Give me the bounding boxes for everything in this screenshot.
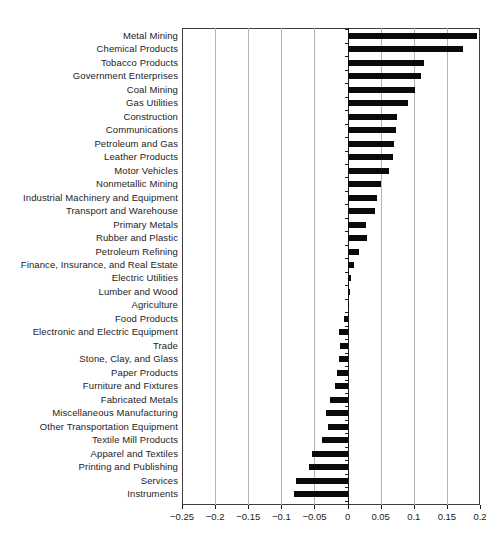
bar	[348, 275, 351, 281]
category-axis-tick	[345, 326, 348, 327]
category-axis-tick	[345, 56, 348, 57]
category-label: Coal Mining	[127, 85, 178, 95]
bar	[348, 249, 359, 255]
category-axis-tick	[345, 420, 348, 421]
gridline	[314, 28, 315, 505]
gridline	[281, 28, 282, 505]
category-label: Furniture and Fixtures	[83, 381, 178, 391]
category-label: Rubber and Plastic	[96, 233, 178, 243]
x-tick-label: −0.1	[272, 511, 291, 522]
category-axis-tick	[345, 272, 348, 273]
category-label: Construction	[123, 112, 178, 122]
x-tick-label: 0.2	[473, 511, 486, 522]
category-label: Trade	[153, 341, 178, 351]
category-label: Agriculture	[131, 300, 178, 310]
bar-chart-figure: −0.25−0.2−0.15−0.1−0.0500.050.10.150.2Me…	[0, 0, 503, 534]
bar	[339, 329, 348, 335]
category-label: Services	[141, 476, 178, 486]
bar	[348, 33, 477, 39]
category-axis-tick	[345, 501, 348, 502]
category-axis-tick	[345, 231, 348, 232]
category-label: Textile Mill Products	[92, 435, 178, 445]
bar	[348, 141, 394, 147]
bar	[337, 370, 348, 376]
bar	[328, 424, 348, 430]
bar	[312, 451, 348, 457]
bar	[348, 127, 396, 133]
category-label: Miscellaneous Manufacturing	[52, 408, 178, 418]
gridline	[248, 28, 249, 505]
x-axis-tick	[215, 505, 216, 509]
x-tick-label: −0.25	[170, 511, 194, 522]
category-label: Petroleum Refining	[95, 247, 178, 257]
bar	[348, 235, 367, 241]
bar	[348, 100, 408, 106]
category-axis-tick	[345, 29, 348, 30]
category-axis-tick	[345, 164, 348, 165]
category-label: Other Transportation Equipment	[40, 422, 178, 432]
bar	[326, 410, 347, 416]
category-axis-tick	[345, 191, 348, 192]
bar	[330, 397, 347, 403]
category-axis-tick	[345, 299, 348, 300]
x-axis-tick	[447, 505, 448, 509]
category-label: Electronic and Electric Equipment	[33, 327, 178, 337]
gridline	[447, 28, 448, 505]
x-axis-tick	[248, 505, 249, 509]
x-tick-label: 0	[345, 511, 350, 522]
category-label: Apparel and Textiles	[91, 449, 178, 459]
bar	[348, 289, 350, 295]
x-tick-label: 0.05	[371, 511, 390, 522]
category-label: Fabricated Metals	[101, 395, 178, 405]
bar	[340, 343, 348, 349]
category-axis-tick	[345, 151, 348, 152]
x-tick-label: −0.2	[206, 511, 225, 522]
category-axis-tick	[345, 97, 348, 98]
category-axis-tick	[345, 312, 348, 313]
x-axis-tick	[414, 505, 415, 509]
category-label: Industrial Machinery and Equipment	[23, 193, 178, 203]
x-tick-label: −0.15	[236, 511, 260, 522]
category-label: Printing and Publishing	[79, 462, 178, 472]
bar	[348, 73, 422, 79]
category-axis-tick	[345, 218, 348, 219]
category-axis-tick	[345, 339, 348, 340]
bar	[348, 262, 355, 268]
category-label: Government Enterprises	[73, 71, 178, 81]
plot-frame-left	[182, 28, 183, 505]
x-axis-tick	[348, 505, 349, 509]
plot-frame-bottom	[182, 504, 480, 505]
category-axis-tick	[345, 137, 348, 138]
category-axis-tick	[345, 487, 348, 488]
category-label: Nonmetallic Mining	[96, 179, 178, 189]
bar	[348, 181, 381, 187]
category-axis-tick	[345, 258, 348, 259]
gridline	[414, 28, 415, 505]
category-axis-tick	[345, 43, 348, 44]
category-axis-tick	[345, 177, 348, 178]
x-tick-label: 0.1	[407, 511, 420, 522]
category-axis-tick	[345, 406, 348, 407]
bar	[322, 437, 348, 443]
gridline	[215, 28, 216, 505]
plot-area	[182, 28, 480, 505]
x-axis-tick	[381, 505, 382, 509]
category-axis-tick	[345, 433, 348, 434]
bar	[348, 208, 375, 214]
bar	[348, 222, 367, 228]
bar	[348, 114, 398, 120]
x-axis-tick	[480, 505, 481, 509]
category-label: Communications	[106, 125, 178, 135]
category-label: Food Products	[115, 314, 178, 324]
category-axis-tick	[345, 70, 348, 71]
bar	[344, 316, 347, 322]
plot-frame-right	[479, 28, 480, 505]
category-label: Instruments	[127, 489, 178, 499]
bar	[309, 464, 347, 470]
bar	[294, 491, 348, 497]
category-axis-tick	[345, 366, 348, 367]
category-label: Stone, Clay, and Glass	[79, 354, 178, 364]
category-label: Gas Utilities	[126, 98, 178, 108]
category-axis-tick	[345, 474, 348, 475]
category-axis-tick	[345, 353, 348, 354]
